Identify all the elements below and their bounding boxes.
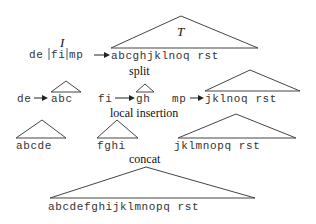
tree-abcde-leaves: abcde [16,140,52,152]
input-part-fi: fi [51,49,65,61]
final-tree-triangle [50,167,255,198]
tree-fghi-leaves: fghi [97,140,126,152]
subtree-abc-leaves: abc [51,93,73,105]
input-label-I: I [59,35,65,50]
arrow-icon [115,95,135,101]
key-mp: mp [172,93,186,105]
tree-abcde-triangle [16,120,66,138]
step-label-local-insertion: local insertion [110,106,178,120]
subtree-gh-triangle [136,84,154,92]
diagram-svg: I de fi mp T abcghjklnoq rst split de ab… [0,0,316,224]
tree-label-T: T [177,24,185,39]
subtree-gh-leaves: gh [136,93,150,105]
subtree-jklnoqrst-triangle [205,70,300,91]
arrow-icon [190,95,204,101]
tree-T-leaves: abcghjklnoq rst [111,50,219,62]
tree-jklmnopqrst-triangle [178,114,296,138]
step-label-split: split [129,64,150,78]
subtree-jklnoqrst-leaves: jklnoq rst [205,93,277,105]
row1-input: I de fi mp [29,35,83,61]
tree-jklmnopqrst-leaves: jklmnopq rst [174,140,260,152]
input-part-mp: mp [69,49,83,61]
arrow-icon [94,52,110,58]
final-tree-leaves: abcdefghijklmnopq rst [48,201,199,213]
subtree-abc-triangle [51,81,81,92]
tree-T-triangle [111,16,258,48]
arrow-icon [34,95,48,101]
tree-fghi-triangle [97,120,138,138]
split-insert-concat-diagram: I de fi mp T abcghjklnoq rst split de ab… [0,0,316,224]
step-label-concat: concat [129,152,161,166]
key-fi: fi [98,93,112,105]
input-part-de: de [29,49,43,61]
key-de: de [17,93,31,105]
